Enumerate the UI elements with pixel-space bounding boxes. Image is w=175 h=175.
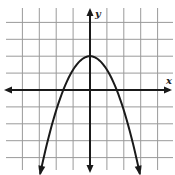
y-axis-top-arrow-icon: [87, 8, 94, 16]
x-axis-label: x: [165, 75, 173, 86]
x-axis-right-arrow-icon: [164, 87, 172, 94]
parabola-graph: x y: [0, 0, 175, 175]
axes: x y: [4, 8, 173, 173]
y-axis-bottom-arrow-icon: [87, 165, 94, 173]
curve-left-arrow-icon: [38, 165, 45, 175]
x-axis-left-arrow-icon: [4, 87, 12, 94]
y-axis-label: y: [94, 8, 102, 19]
curve-right-arrow-icon: [135, 165, 142, 175]
